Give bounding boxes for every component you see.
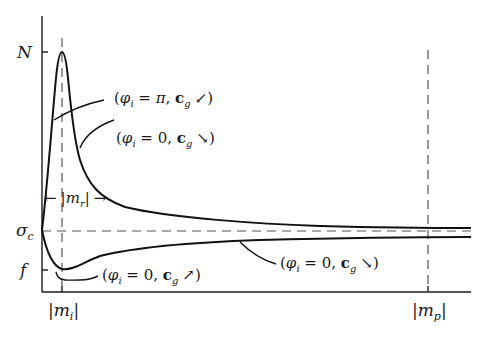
diagram-figure: N σc f |mi| |mp| ←|mr|→ (φi = π, cg↙) (φ…	[0, 0, 496, 338]
label-phi-0-cg-ne: (φi = 0, cg↗)	[102, 266, 201, 286]
curves	[42, 52, 471, 269]
lower-curve	[42, 230, 471, 269]
y-label-n: N	[16, 42, 33, 62]
label-phi-0-cg-se-lower: (φi = 0, cg↘)	[280, 254, 379, 274]
axes	[42, 16, 471, 292]
peak-curve	[42, 52, 471, 230]
leader-phi-0-lower	[240, 242, 276, 264]
leader-phi-0-upper	[80, 120, 114, 148]
label-phi-pi-cg-sw: (φi = π, cg↙)	[114, 89, 213, 109]
y-label-sigma-c: σc	[16, 220, 34, 243]
x-label-mi: |mi|	[48, 300, 79, 323]
y-label-f: f	[18, 260, 29, 280]
leader-phi-0-ne	[56, 272, 98, 280]
mr-range-annotation: ←|mr|→	[44, 189, 107, 209]
label-phi-0-cg-se-upper: (φi = 0, cg↘)	[116, 129, 215, 149]
x-label-mp: |mp|	[412, 300, 447, 323]
